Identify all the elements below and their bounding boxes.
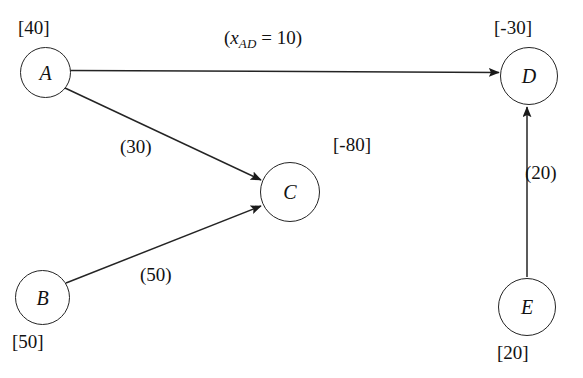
arc-a-to-d-label: (xAD = 10) bbox=[224, 28, 302, 50]
node-a: A bbox=[20, 47, 71, 98]
node-e-supply-label: [20] bbox=[497, 343, 529, 362]
node-b-supply-label: [50] bbox=[12, 332, 44, 351]
node-a-supply-label: [40] bbox=[18, 18, 50, 37]
arc-a-to-c bbox=[65, 88, 261, 180]
arc-ad-value: 10 bbox=[277, 27, 296, 48]
arc-b-to-c-label: (50) bbox=[140, 265, 172, 284]
arc-ad-subscript: AD bbox=[239, 36, 257, 51]
arc-ad-equals: = bbox=[257, 27, 277, 48]
node-d: D bbox=[500, 47, 558, 105]
arc-a-to-d bbox=[70, 71, 499, 73]
node-d-supply-label: [-30] bbox=[494, 18, 532, 37]
arc-a-to-c-label: (30) bbox=[120, 137, 152, 156]
node-a-letter: A bbox=[39, 63, 51, 83]
node-c-supply-label: [-80] bbox=[333, 135, 371, 154]
arc-ad-variable: x bbox=[230, 27, 238, 48]
arc-e-to-d-label: (20) bbox=[525, 163, 557, 182]
node-c: C bbox=[260, 162, 320, 222]
node-e-letter: E bbox=[521, 297, 533, 317]
node-b: B bbox=[15, 270, 70, 325]
node-c-letter: C bbox=[283, 182, 296, 202]
node-b-letter: B bbox=[36, 288, 48, 308]
caption-fragment bbox=[0, 370, 583, 378]
node-e: E bbox=[498, 278, 556, 336]
node-d-letter: D bbox=[522, 66, 536, 86]
arc-ad-paren-close: ) bbox=[296, 27, 302, 48]
